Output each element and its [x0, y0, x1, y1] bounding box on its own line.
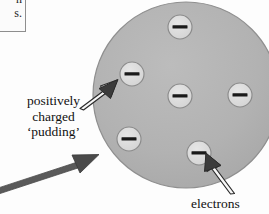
- label-electrons: electrons: [191, 196, 269, 212]
- electron-lower-left: [117, 127, 141, 151]
- electron-right: [228, 83, 252, 107]
- figure-canvas: n s. positively charged ‘pudding’ electr…: [0, 0, 269, 214]
- label-positively-charged-pudding: positively charged ‘pudding’: [6, 93, 101, 140]
- electron-center: [168, 84, 192, 108]
- clipped-note-box: n s.: [0, 0, 26, 32]
- electron-top: [168, 15, 192, 39]
- electron-upper-left: [120, 62, 144, 86]
- clipped-note-line2: s.: [0, 6, 22, 20]
- arrow-long-bottom-left: [0, 155, 99, 196]
